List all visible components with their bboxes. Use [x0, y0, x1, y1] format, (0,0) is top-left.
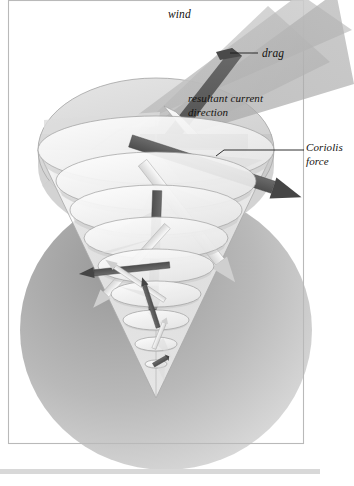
label-coriolis-line1: Coriolis	[306, 141, 343, 153]
figure-root: wind drag resultant current direction Co…	[0, 0, 354, 486]
label-drag: drag	[262, 47, 284, 60]
caption-rule	[0, 469, 320, 474]
label-resultant-current-line2: direction	[188, 106, 229, 118]
label-resultant-current-line1: resultant current	[188, 92, 264, 104]
ekman-spiral-figure: wind drag resultant current direction Co…	[0, 0, 354, 486]
label-wind: wind	[168, 8, 191, 20]
label-coriolis-line2: force	[306, 155, 329, 167]
